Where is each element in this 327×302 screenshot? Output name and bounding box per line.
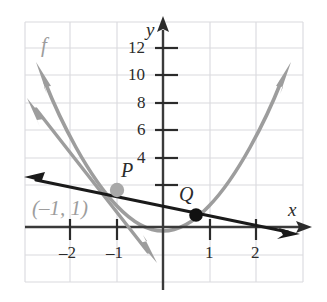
x-tick-label-minus2: –2: [59, 244, 76, 261]
point-p-marker[interactable]: [110, 183, 124, 197]
x-axis-label: x: [288, 200, 296, 219]
secant-right-arrowhead: [277, 228, 300, 239]
y-tick-label-4: 4: [137, 149, 146, 166]
coordinate-plane-svg: [0, 0, 327, 302]
point-p-coordinates-annotation: (–1, 1): [32, 198, 88, 219]
y-tick-label-12: 12: [128, 39, 145, 56]
y-tick-label-8: 8: [137, 94, 146, 111]
x-tick-label-minus1: –1: [106, 244, 123, 261]
y-tick-label-6: 6: [137, 121, 146, 138]
function-label-f: f: [41, 35, 47, 56]
tangent-upper-arrowhead: [27, 98, 44, 127]
x-tick-label-2: 2: [251, 244, 260, 261]
point-p-label: P: [121, 160, 133, 180]
y-tick-label-10: 10: [128, 66, 145, 83]
point-q-label: Q: [179, 184, 193, 204]
tangent-lower-arrowhead: [140, 235, 157, 263]
y-axis-ticks: [155, 48, 178, 185]
y-axis-label: y: [146, 20, 154, 39]
graph-figure: f P Q (–1, 1) x y 12 10 8 6 4 –2 –1 1 2: [0, 0, 327, 302]
point-q-marker[interactable]: [189, 208, 203, 222]
x-tick-label-1: 1: [205, 244, 214, 261]
